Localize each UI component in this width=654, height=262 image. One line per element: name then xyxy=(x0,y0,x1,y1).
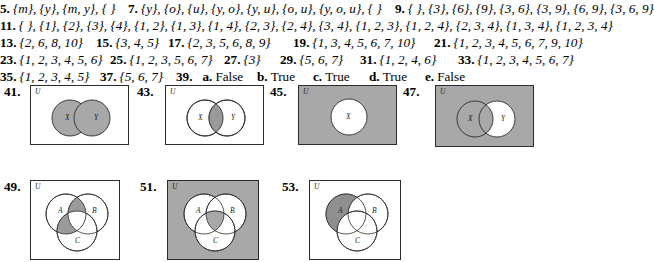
label-a: A xyxy=(195,206,201,215)
label-x: X xyxy=(197,113,203,122)
answer-value: True xyxy=(271,69,295,84)
answer-number: 33. xyxy=(458,52,474,67)
venn-svg: A B C xyxy=(168,181,259,260)
answer-value: {1, 3, 4, 5, 6, 7, 10} xyxy=(312,35,415,50)
venn-svg: X Y xyxy=(166,86,264,145)
answer-value: False xyxy=(437,69,465,84)
answer-value: {1, 2, 3, 4, 5, 6, 7} xyxy=(477,52,573,67)
label-a: A xyxy=(337,206,343,215)
answer-value: { }, {1}, {2}, {3}, {4}, {1, 2}, {1, 3},… xyxy=(19,18,613,33)
venn-diagram-49: 49. U A xyxy=(4,180,134,260)
venn-diagram-53: 53. U A B C xyxy=(282,180,417,260)
answer-line: 35.{1, 2, 3, 4, 5} 37.{5, 6, 7} 39.a.Fal… xyxy=(0,68,626,85)
answer-value: False xyxy=(215,69,243,84)
universe-box: U A B C xyxy=(309,180,401,260)
answer-item: 23.{1, 2, 3, 4, 5, 6} xyxy=(0,51,103,68)
answer-item: 19.{1, 3, 4, 5, 6, 7, 10} xyxy=(293,34,415,51)
answer-value: { }, {3}, {6}, {9}, {3, 6}, {3, 9}, {6, … xyxy=(408,1,654,16)
answer-item: 11.{ }, {1}, {2}, {3}, {4}, {1, 2}, {1, … xyxy=(0,17,613,34)
answer-item: 39.a.False xyxy=(176,68,243,85)
answer-number: 39. xyxy=(176,69,192,84)
answer-value: {1, 2, 4, 6} xyxy=(379,52,436,67)
label-b: B xyxy=(92,206,97,215)
answer-item: 7.{y}, {o}, {u}, {y, o}, {y, u}, {o, u},… xyxy=(128,0,382,17)
answer-value: True xyxy=(325,69,349,84)
answer-number: 19. xyxy=(293,35,309,50)
answer-item: d.True xyxy=(362,68,407,85)
answer-number: 9. xyxy=(395,1,405,16)
answer-item: c.True xyxy=(306,68,350,85)
answer-item: 17.{2, 3, 5, 6, 8, 9} xyxy=(168,34,271,51)
answer-item: 35.{1, 2, 3, 4, 5} xyxy=(0,68,89,85)
universe-box: U X Y xyxy=(30,85,129,145)
diagram-number: 47. xyxy=(403,85,419,98)
venn-svg: X xyxy=(299,86,397,145)
universe-box: U A B C xyxy=(167,180,259,260)
label-x: X xyxy=(345,112,351,121)
answer-value: {1, 2, 3, 4, 5} xyxy=(19,69,89,84)
answer-value: {1, 2, 3, 4, 5, 6} xyxy=(19,52,102,67)
answer-value: True xyxy=(383,69,407,84)
venn-svg: A B C xyxy=(31,181,120,260)
answer-item: 37.{5, 6, 7} xyxy=(100,68,163,85)
answer-number: 13. xyxy=(0,35,16,50)
answer-sublabel: b. xyxy=(257,69,268,84)
diagram-number: 53. xyxy=(282,180,298,193)
venn-diagram-51: 51. U A B C xyxy=(140,180,275,260)
diagram-number: 41. xyxy=(4,85,20,98)
answer-sublabel: c. xyxy=(313,69,322,84)
universe-box: U X Y xyxy=(435,85,534,147)
answer-number: 23. xyxy=(0,52,16,67)
answer-line: 23.{1, 2, 3, 4, 5, 6} 25.{1, 2, 3, 5, 6,… xyxy=(0,51,626,68)
label-x: X xyxy=(467,114,473,123)
answer-sublabel: d. xyxy=(369,69,380,84)
answer-item: 31.{1, 2, 4, 6} xyxy=(360,51,436,68)
answer-number: 15. xyxy=(96,35,112,50)
venn-diagram-41: 41. U X Y xyxy=(4,85,129,147)
answer-value: {y}, {o}, {u}, {y, o}, {y, u}, {o, u}, {… xyxy=(141,1,382,16)
answer-number: 29. xyxy=(280,52,296,67)
answer-list: 5.{m}, {y}, {m, y}, { } 7.{y}, {o}, {u},… xyxy=(0,0,626,85)
answer-sublabel: a. xyxy=(202,69,212,84)
label-b: B xyxy=(230,206,235,215)
answer-line: 5.{m}, {y}, {m, y}, { } 7.{y}, {o}, {u},… xyxy=(0,0,626,17)
answer-number: 37. xyxy=(100,69,116,84)
diagram-number: 51. xyxy=(140,180,156,193)
answer-sublabel: e. xyxy=(425,69,434,84)
answer-value: {3, 4, 5} xyxy=(115,35,159,50)
answer-line: 13.{2, 6, 8, 10} 15.{3, 4, 5} 17.{2, 3, … xyxy=(0,34,626,51)
diagram-number: 49. xyxy=(4,180,20,193)
answer-number: 25. xyxy=(110,52,126,67)
circle-y xyxy=(74,100,110,136)
answer-item: 27.{3} xyxy=(224,51,261,68)
answer-value: {5, 6, 7} xyxy=(299,52,343,67)
venn-svg: X Y xyxy=(31,86,129,145)
label-b: B xyxy=(372,206,377,215)
universe-box: U X Y xyxy=(165,85,264,145)
answer-value: {5, 6, 7} xyxy=(119,69,163,84)
region-a-only xyxy=(310,181,401,260)
answer-value: {2, 3, 5, 6, 8, 9} xyxy=(187,35,270,50)
answer-number: 5. xyxy=(0,1,10,16)
answer-value: {3} xyxy=(243,52,260,67)
answer-number: 31. xyxy=(360,52,376,67)
answer-item: b.True xyxy=(250,68,295,85)
answer-item: 25.{1, 2, 3, 5, 6, 7} xyxy=(110,51,213,68)
venn-diagram-43: 43. U X Y xyxy=(137,85,262,147)
universe-box: U A B xyxy=(30,180,120,260)
venn-diagram-47: 47. U X Y xyxy=(403,85,533,147)
region-y-minus-x xyxy=(436,86,534,147)
venn-svg: A B C xyxy=(310,181,401,260)
answer-item: 5.{m}, {y}, {m, y}, { } xyxy=(0,0,116,17)
universe-box: U X xyxy=(298,85,397,145)
answer-value: {m}, {y}, {m, y}, { } xyxy=(13,1,116,16)
answer-number: 21. xyxy=(434,35,450,50)
answer-value: {2, 6, 8, 10} xyxy=(19,35,82,50)
answer-item: 21.{1, 2, 3, 4, 5, 6, 7, 9, 10} xyxy=(434,34,583,51)
answer-value: {1, 2, 3, 5, 6, 7} xyxy=(129,52,212,67)
answer-line: 11.{ }, {1}, {2}, {3}, {4}, {1, 2}, {1, … xyxy=(0,17,626,34)
answer-item: 13.{2, 6, 8, 10} xyxy=(0,34,83,51)
answer-number: 27. xyxy=(224,52,240,67)
answer-value: {1, 2, 3, 4, 5, 6, 7, 9, 10} xyxy=(453,35,582,50)
diagram-number: 43. xyxy=(137,85,153,98)
